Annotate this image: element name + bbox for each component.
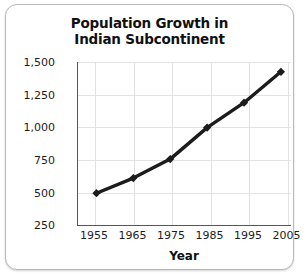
y-tick-label: 1,000 xyxy=(11,122,55,133)
y-tick-label: 500 xyxy=(11,188,55,199)
x-tick-label: 1965 xyxy=(113,230,153,241)
x-tick-label: 1955 xyxy=(74,230,114,241)
plot-area xyxy=(77,62,291,226)
x-tick-label: 1995 xyxy=(228,230,268,241)
x-axis-label: Year xyxy=(77,249,291,263)
series-line xyxy=(78,62,292,226)
x-tick-label: 1985 xyxy=(190,230,230,241)
chart-card: Population Growth in Indian Subcontinent… xyxy=(5,4,294,270)
chart-title: Population Growth in Indian Subcontinent xyxy=(6,16,293,47)
y-tick-label: 750 xyxy=(11,155,55,166)
y-tick-label: 1,250 xyxy=(11,90,55,101)
y-tick-label: 250 xyxy=(11,220,55,231)
y-tick-label: 1,500 xyxy=(11,57,55,68)
chart-title-line-2: Indian Subcontinent xyxy=(6,32,293,48)
chart-title-line-1: Population Growth in xyxy=(6,16,293,32)
x-tick-label: 1975 xyxy=(151,230,191,241)
x-tick-label: 2005 xyxy=(267,230,307,241)
